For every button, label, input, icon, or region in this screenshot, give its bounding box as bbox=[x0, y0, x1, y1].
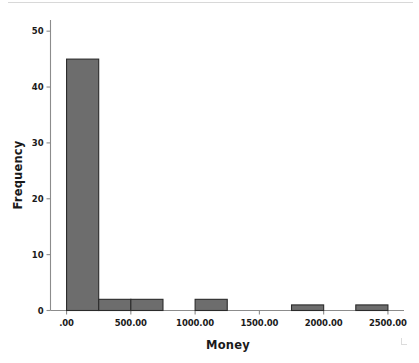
x-tick-label: 2000.00 bbox=[305, 318, 343, 328]
y-tick-label: 30 bbox=[32, 138, 44, 148]
y-tick-label: 20 bbox=[32, 194, 44, 204]
x-tick-label: .00 bbox=[59, 318, 74, 328]
y-tick-label: 50 bbox=[32, 26, 44, 36]
histogram-bar bbox=[292, 305, 324, 311]
y-tick-label: 0 bbox=[38, 306, 44, 316]
histogram-canvas: 01020304050 .00500.001000.001500.002000.… bbox=[0, 0, 419, 363]
x-tick-label: 500.00 bbox=[115, 318, 147, 328]
histogram-bar bbox=[131, 299, 163, 310]
x-tick-label: 1500.00 bbox=[240, 318, 278, 328]
y-axis-title: Frequency bbox=[11, 140, 25, 209]
histogram-bar bbox=[195, 299, 227, 310]
x-tick-label: 2500.00 bbox=[369, 318, 407, 328]
scan-artifact-line bbox=[8, 2, 413, 3]
y-tick-label: 40 bbox=[32, 82, 44, 92]
histogram-bar bbox=[67, 59, 99, 310]
scan-artifact-corner bbox=[401, 338, 407, 345]
x-tick-label: 1000.00 bbox=[176, 318, 214, 328]
histogram-bar bbox=[356, 305, 388, 311]
y-tick-label: 10 bbox=[32, 250, 44, 260]
x-axis-title: Money bbox=[206, 338, 250, 352]
histogram-figure: 01020304050 .00500.001000.001500.002000.… bbox=[0, 0, 419, 363]
histogram-bar bbox=[99, 299, 131, 310]
